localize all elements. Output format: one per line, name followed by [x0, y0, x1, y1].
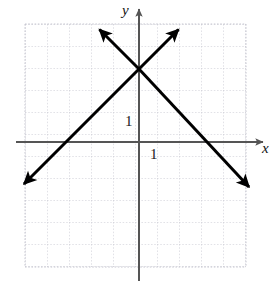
x-axis-label: x: [262, 140, 269, 157]
y-axis-unit-tick-label: 1: [125, 113, 133, 130]
x-axis-unit-tick-label: 1: [150, 146, 158, 163]
y-axis-label: y: [122, 2, 129, 19]
coordinate-plane-svg: [0, 0, 271, 283]
graph-figure: y x 1 1: [0, 0, 271, 283]
grid-lines: [25, 24, 246, 267]
